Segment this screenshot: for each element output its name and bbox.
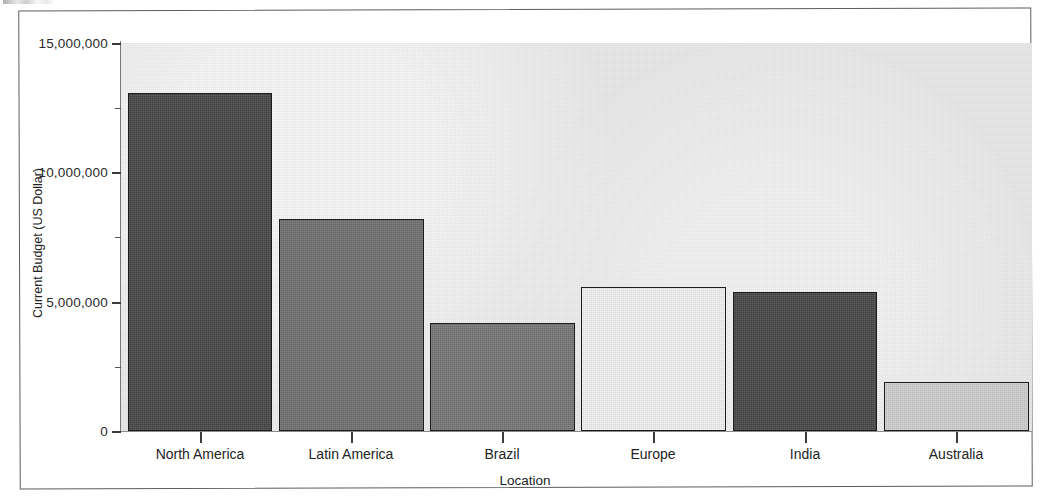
x-tick-mark-brazil — [502, 432, 504, 443]
x-tick-mark-australia — [956, 432, 958, 443]
x-tick-mark-europe — [653, 432, 655, 443]
y-tick-10000000 — [112, 172, 121, 174]
x-tick-mark-latin-america — [351, 432, 353, 443]
y-tick-label-15000000: 15,000,000 — [0, 36, 108, 51]
x-tick-mark-north-america — [200, 432, 202, 443]
y-tick-minor-12500000 — [115, 108, 121, 109]
y-tick-5000000 — [112, 302, 121, 304]
bar-latin-america[interactable] — [279, 219, 424, 431]
y-tick-minor-7500000 — [115, 237, 121, 238]
bar-europe[interactable] — [581, 287, 726, 431]
bar-north-america[interactable] — [128, 93, 272, 431]
x-tick-mark-india — [805, 432, 807, 443]
bar-india[interactable] — [733, 292, 877, 431]
x-axis-line — [120, 431, 1032, 432]
y-tick-0 — [112, 431, 121, 433]
y-axis-title: Current Budget (US Dollar) — [31, 83, 45, 403]
y-tick-label-5000000: 5,000,000 — [0, 295, 108, 310]
bar-australia[interactable] — [884, 382, 1029, 431]
bar-chart: 15,000,000 10,000,000 5,000,000 0 North … — [0, 0, 1050, 498]
y-tick-label-10000000: 10,000,000 — [0, 165, 108, 180]
x-tick-label-australia: Australia — [866, 446, 1046, 462]
x-axis-title: Location — [0, 473, 1050, 488]
bar-brazil[interactable] — [430, 323, 575, 431]
y-tick-label-0: 0 — [0, 424, 108, 439]
y-tick-15000000 — [112, 43, 121, 45]
y-tick-minor-2500000 — [115, 367, 121, 368]
